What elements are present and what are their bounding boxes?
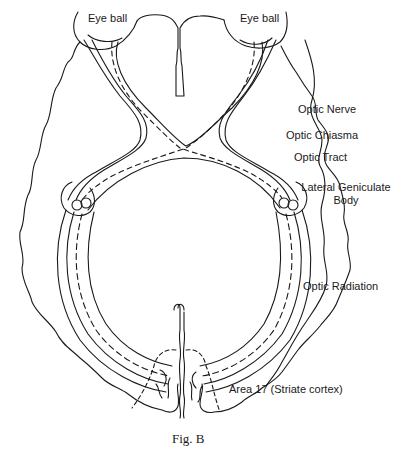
optic-nerve-right-outer bbox=[225, 40, 298, 200]
frontal-lobe-outline bbox=[137, 15, 224, 96]
lgn-label: Lateral Geniculate Body bbox=[296, 181, 393, 207]
optic-nerve-right-dashed bbox=[82, 42, 254, 200]
optic-tract-label: Optic Tract bbox=[294, 151, 347, 164]
lgn-left-nucleus-1 bbox=[72, 200, 82, 210]
figure-caption: Fig. B bbox=[172, 431, 205, 447]
optic-nerve-left-crossing bbox=[116, 42, 262, 146]
lgn-label-line2: Body bbox=[296, 194, 393, 207]
midline-fissure bbox=[174, 304, 185, 418]
lgn-left-nucleus-2 bbox=[81, 198, 91, 208]
label-brace bbox=[266, 40, 327, 386]
optic-nerve-label: Optic Nerve bbox=[298, 103, 356, 116]
area17-label: Area 17 (Striate cortex) bbox=[229, 383, 343, 396]
lgn-right-nucleus-1 bbox=[279, 198, 289, 208]
lgn-label-line1: Lateral Geniculate bbox=[296, 181, 393, 194]
optic-nerve-left-dashed bbox=[112, 42, 282, 198]
optic-tract-inner-arc bbox=[88, 158, 280, 210]
optic-radiation-label: Optic Radiation bbox=[303, 280, 378, 293]
eyeball-left-label: Eye ball bbox=[88, 12, 127, 25]
brain-outline bbox=[20, 42, 179, 412]
eyeball-right-label: Eye ball bbox=[240, 12, 279, 25]
area17-right-sulci bbox=[190, 372, 202, 402]
area17-right-dashed bbox=[186, 350, 220, 412]
visual-pathway-diagram: Eye ball Eye ball Optic Nerve Optic Chia… bbox=[0, 0, 393, 453]
optic-chiasma-label: Optic Chiasma bbox=[286, 129, 358, 142]
eyeball-left-inner bbox=[88, 35, 122, 42]
brain-outline-right bbox=[200, 46, 350, 413]
